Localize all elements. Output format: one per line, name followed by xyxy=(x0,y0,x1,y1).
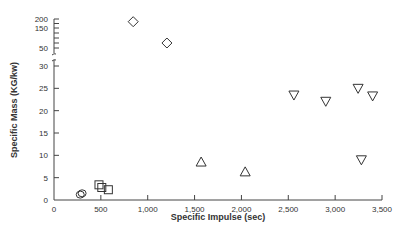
svg-text:3,500: 3,500 xyxy=(372,205,393,214)
svg-text:1,000: 1,000 xyxy=(138,205,159,214)
triangle-down-marker xyxy=(321,97,331,106)
scatter-chart: 05001,0001,5002,0002,5003,0003,500051015… xyxy=(0,0,414,237)
tick-labels: 05001,0001,5002,0002,5003,0003,500051015… xyxy=(35,15,393,214)
svg-text:200: 200 xyxy=(35,15,49,24)
data-points xyxy=(76,17,377,198)
svg-text:15: 15 xyxy=(39,129,48,138)
svg-text:25: 25 xyxy=(39,84,48,93)
svg-text:3,000: 3,000 xyxy=(325,205,346,214)
svg-text:2,500: 2,500 xyxy=(278,205,299,214)
axes xyxy=(52,19,382,200)
y-axis-label: Specific Mass (KG/kw) xyxy=(9,62,19,158)
diamond-marker xyxy=(128,17,138,27)
triangle-down-marker xyxy=(289,91,299,100)
svg-text:0: 0 xyxy=(44,196,49,205)
svg-text:5: 5 xyxy=(44,174,49,183)
svg-text:0: 0 xyxy=(52,205,57,214)
triangle-up-marker xyxy=(196,157,206,166)
svg-text:50: 50 xyxy=(39,44,48,53)
diamond-marker xyxy=(162,38,172,48)
svg-text:20: 20 xyxy=(39,107,48,116)
square-marker xyxy=(95,181,103,189)
triangle-down-marker xyxy=(356,156,366,165)
circle-marker xyxy=(76,191,84,198)
x-axis-label: Specific Impulse (sec) xyxy=(171,212,266,222)
svg-text:30: 30 xyxy=(39,62,48,71)
svg-text:150: 150 xyxy=(35,24,49,33)
triangle-down-marker xyxy=(353,84,363,93)
triangle-down-marker xyxy=(368,92,378,101)
svg-text:10: 10 xyxy=(39,151,48,160)
svg-text:500: 500 xyxy=(94,205,108,214)
triangle-up-marker xyxy=(240,167,250,176)
chart-canvas: 05001,0001,5002,0002,5003,0003,500051015… xyxy=(0,0,414,237)
